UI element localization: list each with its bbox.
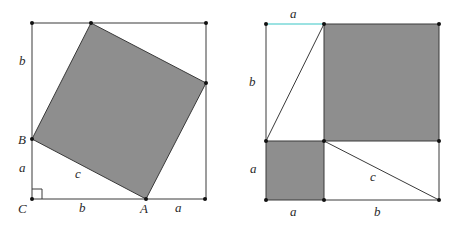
- right-vertex-mid-left: [264, 139, 268, 143]
- right-label-a-top: a: [290, 6, 297, 21]
- right-label-b-bottom: b: [374, 204, 381, 219]
- left-vertex-top-right: [204, 21, 208, 25]
- left-label-c-hypotenuse: c: [75, 166, 81, 181]
- left-label-a-side: a: [19, 160, 26, 175]
- right-angle-marker: [32, 189, 42, 199]
- pythagorean-diagram: b B a c C b A a a b a c: [0, 0, 457, 230]
- right-a-square: [266, 141, 324, 200]
- right-label-b-side: b: [249, 74, 256, 89]
- right-vertex-top-mid: [322, 22, 326, 26]
- label-point-C: C: [18, 201, 27, 216]
- left-vertex-right: [204, 81, 208, 85]
- left-label-a-bottom: a: [175, 200, 182, 215]
- left-vertex-top-left: [30, 21, 34, 25]
- right-vertex-bottom-right: [437, 198, 441, 202]
- left-vertex-bottom-right: [203, 197, 207, 201]
- point-C: [30, 197, 34, 201]
- right-upper-diagonal: [266, 24, 324, 141]
- right-label-a-side: a: [250, 161, 257, 176]
- right-vertex-center: [322, 139, 326, 143]
- right-lower-diagonal: [324, 141, 439, 200]
- right-vertex-bottom-left: [264, 198, 268, 202]
- right-label-c-hypotenuse: c: [370, 169, 376, 184]
- left-c-square: [32, 23, 206, 199]
- label-point-A: A: [139, 201, 148, 216]
- left-label-b-side: b: [19, 53, 26, 68]
- left-vertex-top: [89, 21, 93, 25]
- right-figure: a b a c a b: [249, 6, 441, 219]
- right-vertex-top-left: [264, 22, 268, 26]
- right-vertex-top-right: [437, 22, 441, 26]
- right-b-square: [324, 24, 439, 141]
- label-point-B: B: [18, 132, 26, 147]
- left-label-b-bottom: b: [79, 200, 86, 215]
- left-figure: b B a c C b A a: [18, 21, 208, 216]
- right-vertex-bottom-mid: [322, 198, 326, 202]
- right-label-a-bottom: a: [290, 204, 297, 219]
- point-B: [30, 137, 34, 141]
- right-vertex-mid-right: [437, 139, 441, 143]
